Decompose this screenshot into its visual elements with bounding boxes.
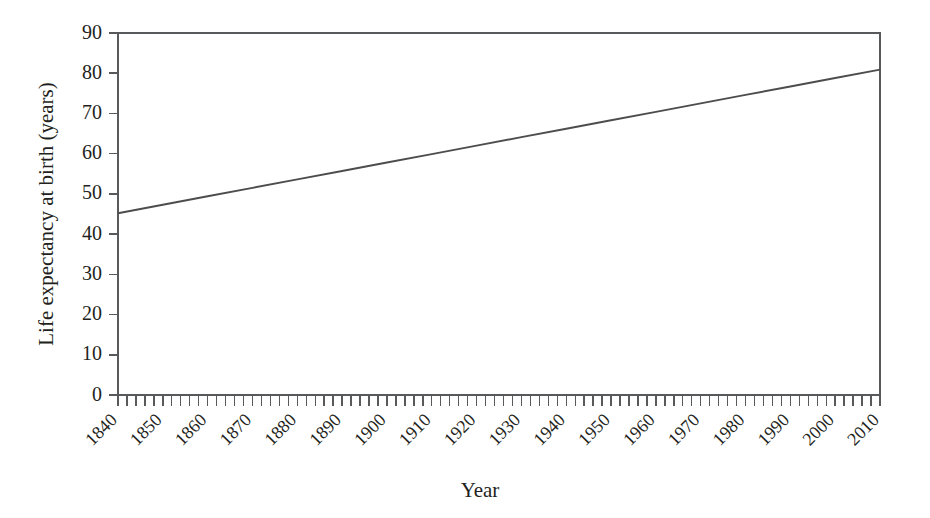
x-tick-label: 1920	[440, 410, 480, 450]
x-tick-label: 1890	[305, 410, 345, 450]
x-tick-label: 1950	[574, 410, 614, 450]
x-tick-label: 1910	[395, 410, 435, 450]
y-tick-label: 50	[82, 181, 102, 203]
y-tick-label: 80	[82, 61, 102, 83]
x-axis-minor-ticks	[118, 395, 880, 406]
x-axis-title: Year	[461, 478, 500, 502]
x-tick-label: 1840	[81, 410, 121, 450]
plot-frame	[118, 33, 880, 395]
x-tick-label: 1880	[261, 410, 301, 450]
x-tick-label: 1860	[171, 410, 211, 450]
x-tick-label: 1850	[126, 410, 166, 450]
x-tick-label: 1900	[350, 410, 390, 450]
y-tick-label: 70	[82, 101, 102, 123]
y-tick-label: 30	[82, 262, 102, 284]
x-tick-label: 1870	[216, 410, 256, 450]
y-tick-label: 90	[82, 21, 102, 43]
x-tick-label: 1980	[709, 410, 749, 450]
x-tick-label: 1970	[664, 410, 704, 450]
chart-figure: 0102030405060708090 18401850186018701880…	[0, 0, 930, 518]
y-axis-tick-labels: 0102030405060708090	[82, 21, 102, 405]
x-tick-label: 2010	[843, 410, 883, 450]
x-tick-label: 1930	[485, 410, 525, 450]
x-tick-label: 1990	[754, 410, 794, 450]
data-line-life-expectancy	[118, 70, 880, 214]
x-axis-tick-labels: 1840185018601870188018901900191019201930…	[81, 410, 883, 450]
data-series-group	[118, 70, 880, 214]
y-tick-label: 10	[82, 342, 102, 364]
x-tick-label: 1960	[619, 410, 659, 450]
y-tick-label: 60	[82, 141, 102, 163]
line-chart: 0102030405060708090 18401850186018701880…	[0, 0, 930, 518]
y-tick-label: 20	[82, 302, 102, 324]
x-tick-label: 2000	[798, 410, 838, 450]
y-tick-label: 40	[82, 222, 102, 244]
y-axis-ticks	[109, 33, 118, 395]
y-axis-title: Life expectancy at birth (years)	[34, 82, 58, 346]
x-tick-label: 1940	[529, 410, 569, 450]
y-tick-label: 0	[92, 383, 102, 405]
